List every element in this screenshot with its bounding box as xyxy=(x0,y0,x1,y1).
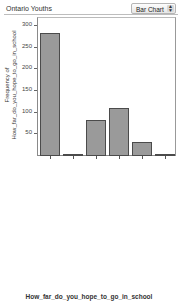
y-tick-label: 200 xyxy=(12,64,32,70)
y-tick-label: 300 xyxy=(12,21,32,27)
x-tick-mark xyxy=(119,156,120,159)
x-tick-label-wrap: I WILL COMPLETE MIDDLE SCHOOL/JUNIOR HIG… xyxy=(69,160,79,270)
x-tick-label-wrap: I WILL COMPLETE HIGH SCHOOL - xyxy=(138,160,148,270)
x-tick-mark xyxy=(142,156,143,159)
x-axis-title: How_far_do_you_hope_to_go_in_school xyxy=(0,293,178,300)
bar[interactable] xyxy=(132,142,152,156)
x-tick-mark xyxy=(165,156,166,159)
header-title: Ontario Youths xyxy=(6,5,52,12)
chart-type-select[interactable]: Bar Chart ▲▼ xyxy=(131,3,176,14)
y-tick-label: 250 xyxy=(12,43,32,49)
bar[interactable] xyxy=(40,33,60,157)
x-tick-label-wrap: OTHER - xyxy=(161,160,171,270)
bar[interactable] xyxy=(109,108,129,156)
x-tick-mark xyxy=(73,156,74,159)
x-tick-label-wrap: I WILL COMPLETE COLLEGE - xyxy=(115,160,125,270)
bar[interactable] xyxy=(86,120,106,156)
x-tick-mark xyxy=(96,156,97,159)
y-tick-label: 150 xyxy=(12,86,32,92)
x-tick-mark xyxy=(50,156,51,159)
x-tick-label-wrap: I WILL COMPLETE A UNIVERSITY DEGREE - xyxy=(46,160,56,270)
y-tick-label: 50 xyxy=(12,129,32,135)
y-axis-label-line1: Frequency of xyxy=(4,20,11,150)
y-tick-label: 100 xyxy=(12,108,32,114)
select-arrows-icon: ▲▼ xyxy=(167,5,174,12)
chart-type-select-value: Bar Chart xyxy=(136,6,164,13)
x-tick-label-wrap: I DON-T KNOW - xyxy=(92,160,102,270)
